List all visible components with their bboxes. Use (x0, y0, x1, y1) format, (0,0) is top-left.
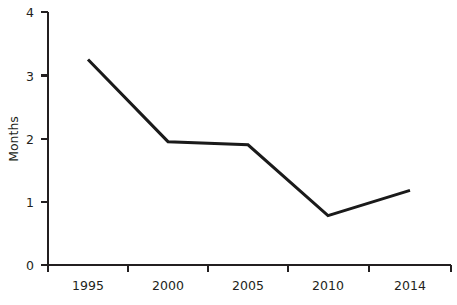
y-tick-label-0: 0 (26, 258, 34, 273)
x-tick-label-2010: 2010 (312, 278, 344, 293)
y-tick-label-4: 4 (26, 5, 34, 20)
y-tick-label-3: 3 (26, 69, 34, 84)
x-tick-label-2014: 2014 (394, 278, 426, 293)
x-tick-label-2000: 2000 (152, 278, 184, 293)
line-chart: 0 1 2 3 4 1995 2000 2005 2010 2014 Month… (0, 0, 457, 305)
y-tick-label-1: 1 (26, 195, 34, 210)
chart-container: 0 1 2 3 4 1995 2000 2005 2010 2014 Month… (0, 0, 457, 305)
y-tick-label-2: 2 (26, 132, 34, 147)
x-tick-label-1995: 1995 (72, 278, 104, 293)
x-tick-label-2005: 2005 (232, 278, 264, 293)
chart-background (0, 0, 457, 305)
y-axis-title: Months (6, 116, 21, 162)
